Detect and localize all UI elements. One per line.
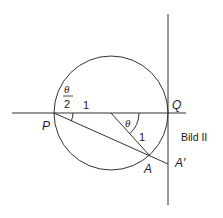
label-point-p: P [42,119,50,133]
label-radius-horizontal: 1 [83,99,89,111]
label-point-a-prime: A′ [174,156,186,170]
center-angle-arc [130,113,139,134]
label-half-angle-denominator: 2 [64,98,70,110]
label-center-angle: θ [125,117,131,129]
label-radius-slanted: 1 [139,131,145,143]
label-half-angle-numerator: θ [64,83,70,95]
label-point-a: A [143,162,152,176]
geometry-diagram: θ 2 1 P Q θ 1 A A′ Bild II [0,0,223,218]
label-point-q: Q [172,98,181,112]
half-angle-arc [71,113,73,121]
figure-caption: Bild II [181,131,207,143]
